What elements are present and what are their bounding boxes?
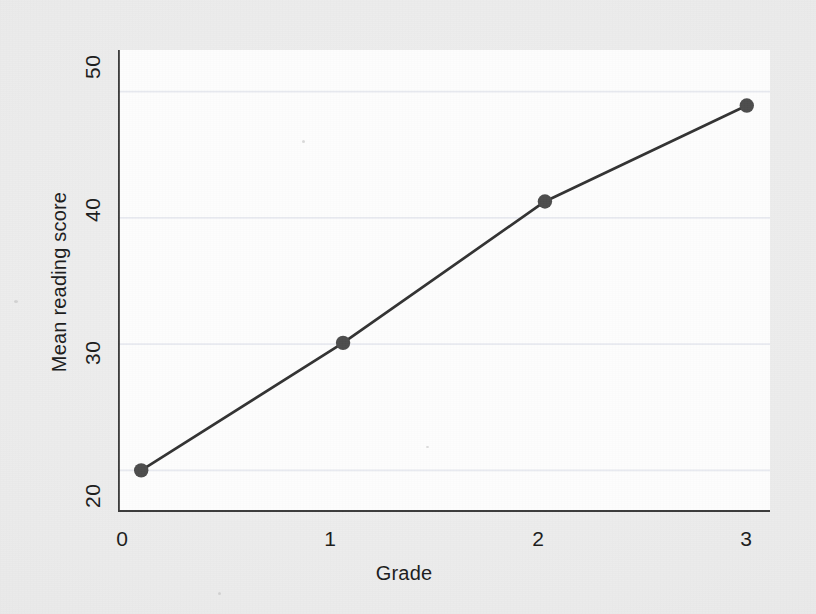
y-tick-label-50: 50 (81, 45, 105, 79)
data-markers (134, 98, 754, 477)
data-point (740, 98, 754, 112)
y-tick-label-30: 30 (81, 331, 105, 365)
x-tick-label-3: 3 (726, 527, 766, 551)
plot-region (118, 50, 770, 512)
chart-figure: 50 40 30 20 Mean reading score 0 1 2 3 G… (0, 0, 816, 614)
x-tick-label-0: 0 (102, 527, 142, 551)
x-tick-label-2: 2 (518, 527, 558, 551)
data-line (141, 106, 747, 471)
y-tick-label-20: 20 (81, 474, 105, 508)
gridlines (119, 92, 770, 471)
scan-speck (302, 140, 305, 143)
x-axis-title: Grade (344, 562, 464, 585)
data-point (538, 194, 552, 208)
data-point (336, 336, 350, 350)
y-axis-title: Mean reading score (48, 182, 72, 382)
x-tick-label-1: 1 (310, 527, 350, 551)
scan-speck (218, 592, 221, 595)
y-tick-label-40: 40 (81, 188, 105, 222)
plot-svg (118, 50, 770, 512)
scan-speck (14, 300, 18, 303)
scan-speck (426, 446, 429, 448)
data-point (134, 463, 148, 477)
